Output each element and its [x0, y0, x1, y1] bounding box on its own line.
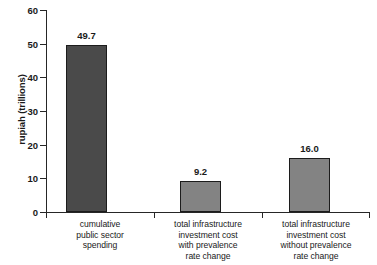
x-category-label-3-line-2: investment cost — [262, 230, 370, 241]
x-category-label-2-line-3: with prevalence — [154, 240, 262, 251]
x-tick-sep-1 — [154, 212, 155, 218]
y-tick-label-50: 50 — [4, 39, 38, 49]
y-tick-label-30: 30 — [4, 107, 38, 117]
y-tick-label-0: 0 — [4, 208, 38, 218]
x-category-label-1-line-1: cumulative — [46, 219, 154, 230]
bar-value-label-1: 49.7 — [66, 31, 107, 41]
x-category-label-1-line-3: spending — [46, 240, 154, 251]
x-category-label-1-line-2: public sector — [46, 230, 154, 241]
x-category-label-2-line-2: investment cost — [154, 230, 262, 241]
y-tick-40 — [40, 77, 47, 78]
bar-value-label-3: 16.0 — [289, 144, 330, 154]
bar-value-label-2: 9.2 — [180, 167, 221, 177]
y-tick-60 — [40, 10, 47, 11]
x-category-label-3: total infrastructure investment cost wit… — [262, 219, 370, 261]
bar-investment-cost-with-prevalence-rate-change — [180, 181, 221, 212]
y-tick-label-10: 10 — [4, 174, 38, 184]
x-category-label-3-line-3: without prevalence — [262, 240, 370, 251]
x-tick-right — [369, 212, 370, 218]
x-category-label-3-line-4: rate change — [262, 251, 370, 262]
y-tick-label-20: 20 — [4, 140, 38, 150]
x-tick-sep-2 — [262, 212, 263, 218]
x-category-label-3-line-1: total infrastructure — [262, 219, 370, 230]
x-category-label-2: total infrastructure investment cost wit… — [154, 219, 262, 261]
bar-investment-cost-without-prevalence-rate-change — [289, 158, 330, 212]
x-category-label-2-line-4: rate change — [154, 251, 262, 262]
x-tick-left — [46, 212, 47, 218]
bar-chart: rupiah (trillions) 0 10 20 30 40 50 — [0, 0, 377, 265]
y-tick-label-40: 40 — [4, 73, 38, 83]
y-tick-20 — [40, 145, 47, 146]
y-tick-30 — [40, 111, 47, 112]
y-tick-10 — [40, 178, 47, 179]
x-category-label-1: cumulative public sector spending — [46, 219, 154, 251]
x-category-label-2-line-1: total infrastructure — [154, 219, 262, 230]
bar-cumulative-public-sector-spending — [66, 45, 107, 212]
y-tick-50 — [40, 44, 47, 45]
x-axis-line — [46, 212, 370, 213]
y-tick-label-60: 60 — [4, 6, 38, 16]
